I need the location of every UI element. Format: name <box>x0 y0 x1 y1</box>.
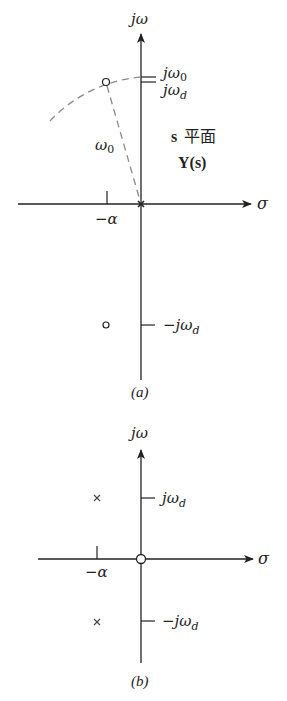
function-label: Y(s) <box>178 154 206 172</box>
imag-axis-label: jω <box>128 10 148 28</box>
label-neg-jwd-b: −jωd <box>162 612 199 633</box>
label-neg-jwd: −jωd <box>163 316 200 337</box>
s-plane-label: s <box>171 128 177 145</box>
label-neg-alpha-b: −α <box>85 563 108 581</box>
caption-a: (a) <box>131 384 149 401</box>
zero-marker-upper <box>103 79 110 86</box>
omega0-arc <box>50 77 141 121</box>
pole-marker-upper-b <box>94 495 100 501</box>
real-axis-label: σ <box>257 194 269 213</box>
caption-b: (b) <box>131 673 149 690</box>
s-plane-cn-label: 平面 <box>184 127 216 146</box>
pole-zero-diagrams: jω σ jω0 jωd −jωd −α ω0 s 平面 Y(s) (a) <box>0 0 287 701</box>
label-jwd-b: jωd <box>159 489 186 510</box>
figure-b: jω σ jωd −jωd −α (b) <box>38 424 270 690</box>
imag-axis-label-b: jω <box>128 424 148 442</box>
figure-a: jω σ jω0 jωd −jωd −α ω0 s 平面 Y(s) (a) <box>18 10 269 401</box>
zero-marker-origin-b <box>137 555 146 564</box>
zero-marker-lower <box>103 322 109 328</box>
real-axis-label-b: σ <box>258 549 270 568</box>
label-omega0: ω0 <box>95 136 114 156</box>
pole-marker-lower-b <box>94 619 100 625</box>
label-jwd: jωd <box>160 81 187 102</box>
label-neg-alpha: −α <box>95 210 118 228</box>
